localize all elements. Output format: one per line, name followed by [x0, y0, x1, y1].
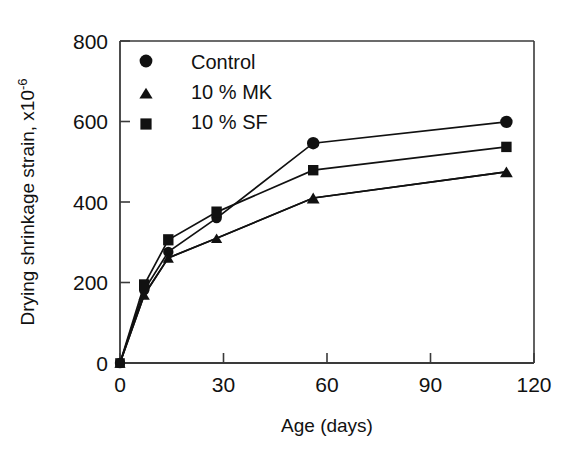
- x-tick-label-120: 120: [516, 373, 551, 396]
- data-point-sf-112: [501, 142, 511, 152]
- data-point-sf-14: [163, 234, 173, 245]
- x-tick-label-0: 0: [114, 373, 126, 396]
- y-tick-label-600: 600: [73, 110, 108, 133]
- drying-shrinkage-line-chart: 0 200 400 600 800 0 30 60 90 120 Age (da…: [0, 0, 574, 474]
- legend-marker-square-icon: [140, 118, 151, 129]
- y-tick-label-800: 800: [73, 30, 108, 53]
- chart-background: [0, 0, 574, 474]
- legend-label-10-mk: 10 % MK: [191, 81, 273, 103]
- y-axis-title: Drying shrinkage strain, x10-6: [15, 78, 38, 325]
- x-tick-label-90: 90: [419, 373, 442, 396]
- data-point-sf-56: [308, 165, 318, 175]
- chart-figure: 0 200 400 600 800 0 30 60 90 120 Age (da…: [0, 0, 574, 474]
- legend-marker-circle-icon: [140, 55, 153, 68]
- y-axis-title-group: Drying shrinkage strain, x10-6: [15, 78, 38, 325]
- y-axis-title-text: Drying shrinkage strain, x10: [17, 90, 38, 326]
- legend-label-control: Control: [191, 51, 255, 73]
- y-tick-label-400: 400: [73, 191, 108, 214]
- y-tick-label-0: 0: [96, 352, 108, 375]
- x-tick-label-30: 30: [212, 373, 235, 396]
- data-point-control-112: [500, 116, 512, 128]
- y-tick-label-200: 200: [73, 271, 108, 294]
- x-axis-title: Age (days): [281, 415, 373, 436]
- y-axis-title-exponent: -6: [15, 78, 30, 90]
- legend-label-10-sf: 10 % SF: [191, 111, 268, 133]
- data-point-control-56: [307, 137, 319, 149]
- data-point-sf-28: [211, 207, 221, 218]
- x-tick-label-60: 60: [315, 373, 338, 396]
- data-point-sf-7: [139, 279, 149, 290]
